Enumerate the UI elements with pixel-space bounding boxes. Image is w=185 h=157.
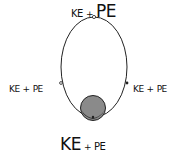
ke-text: KE bbox=[60, 134, 81, 154]
bottom-energy-label: KE+PE bbox=[60, 134, 105, 154]
plus-text: + bbox=[23, 84, 30, 94]
left-energy-label: KE+PE bbox=[9, 77, 43, 96]
right-energy-label: KE+PE bbox=[133, 77, 167, 96]
pe-text: PE bbox=[33, 84, 43, 94]
plus-text: + bbox=[147, 84, 154, 94]
plus-text: + bbox=[84, 142, 91, 152]
top-energy-label: KE+PE bbox=[71, 1, 116, 21]
pe-text: PE bbox=[157, 84, 167, 94]
plus-text: + bbox=[86, 9, 93, 19]
ke-text: KE bbox=[9, 84, 20, 94]
left-point bbox=[60, 82, 63, 85]
right-point bbox=[126, 82, 129, 85]
pe-text: PE bbox=[96, 1, 116, 21]
bottom-point bbox=[92, 116, 94, 118]
pe-text: PE bbox=[94, 141, 105, 152]
ke-text: KE bbox=[71, 8, 83, 19]
ke-text: KE bbox=[133, 84, 144, 94]
